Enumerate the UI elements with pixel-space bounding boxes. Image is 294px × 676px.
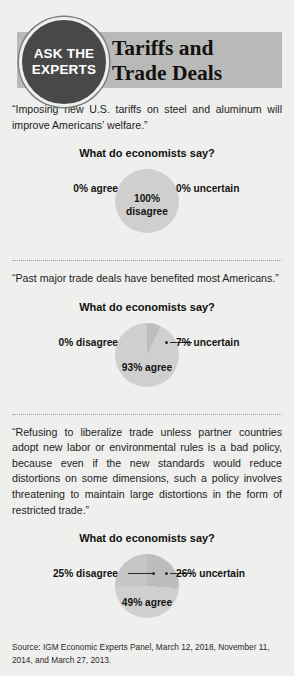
quote-text: “Past major trade deals have benefited m…: [12, 271, 282, 287]
pie-2-leader-dot: [165, 341, 168, 344]
page-title: Tariffs and Trade Deals: [112, 36, 222, 86]
pie-3-leader-line-left: [128, 573, 152, 574]
badge-line-2: EXPERTS: [32, 62, 96, 78]
pie-chart-2: 0% disagree 7% uncertain 93% agree: [12, 317, 282, 403]
pie-3-center-line-1: 49% agree: [87, 596, 207, 609]
pie-2-center-label: 93% agree: [87, 361, 207, 374]
pie-2-center-line-1: 93% agree: [87, 361, 207, 374]
quote-text: “Refusing to liberalize trade unless par…: [12, 425, 282, 518]
section-tariffs: “Imposing new U.S. tariffs on steel and …: [12, 102, 282, 249]
chart-heading: What do economists say?: [12, 301, 282, 313]
section-trade-deals: “Past major trade deals have benefited m…: [12, 271, 282, 403]
chart-heading: What do economists say?: [12, 147, 282, 159]
pie-3-center-label: 49% agree: [87, 596, 207, 609]
pie-chart-3: 25% disagree 26% uncertain 49% agree: [12, 548, 282, 634]
pie-1-center-line-1: 100%: [87, 192, 207, 205]
section-divider-2: [12, 414, 282, 415]
ask-the-experts-badge: ASK THE EXPERTS: [19, 17, 109, 107]
page-title-line-2: Trade Deals: [112, 61, 222, 86]
content: “Imposing new U.S. tariffs on steel and …: [0, 102, 294, 634]
pie-2-label-disagree: 0% disagree: [59, 337, 118, 348]
pie-3-label-disagree: 25% disagree: [53, 568, 118, 579]
pie-3-label-uncertain: 26% uncertain: [176, 568, 245, 579]
page-title-line-1: Tariffs and: [112, 36, 222, 61]
pie-2-disc: [115, 323, 179, 387]
header: ASK THE EXPERTS Tariffs and Trade Deals: [0, 0, 294, 96]
source-note: Source: IGM Economic Experts Panel, Marc…: [12, 641, 282, 666]
chart-heading: What do economists say?: [12, 532, 282, 544]
badge-line-1: ASK THE: [34, 46, 95, 62]
pie-chart-1: 0% agree 0% uncertain 100% disagree: [12, 163, 282, 249]
section-liberalize-trade: “Refusing to liberalize trade unless par…: [12, 425, 282, 634]
quote-text: “Imposing new U.S. tariffs on steel and …: [12, 102, 282, 133]
pie-2-label-uncertain: 7% uncertain: [176, 337, 239, 348]
pie-1-center-line-2: disagree: [87, 205, 207, 218]
section-divider-1: [12, 260, 282, 261]
pie-1-center-label: 100% disagree: [87, 192, 207, 218]
